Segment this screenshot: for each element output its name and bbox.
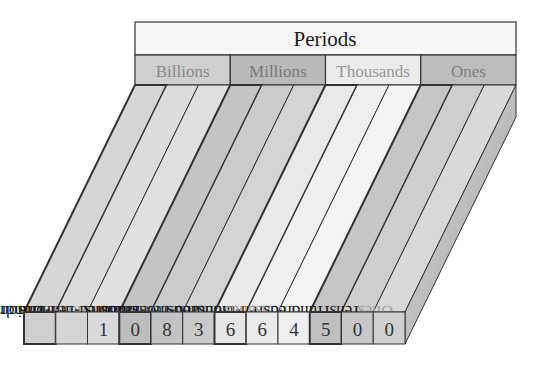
digit-cell: 3 <box>183 312 215 344</box>
period-cell-millions: Millions <box>230 55 325 85</box>
digit-value: 3 <box>194 319 204 340</box>
digit-cell <box>56 312 88 344</box>
digit-row: 1083664500 <box>24 312 405 344</box>
digit-cell: 8 <box>151 312 183 344</box>
period-cell-thousands: Thousands <box>326 55 421 85</box>
digit-value: 5 <box>321 319 331 340</box>
period-cell-billions: Billions <box>135 55 230 85</box>
digit-value: 1 <box>99 319 109 340</box>
digit-cell: 4 <box>278 312 310 344</box>
digit-cell: 6 <box>215 312 247 344</box>
period-header-row: BillionsMillionsThousandsOnes <box>135 55 516 85</box>
period-label: Billions <box>156 62 210 81</box>
digit-value: 6 <box>226 319 236 340</box>
digit-cell <box>24 312 56 344</box>
period-label: Thousands <box>336 62 410 81</box>
period-label: Millions <box>249 62 307 81</box>
digit-value: 4 <box>289 319 299 340</box>
place-value-slats: Hundred-billionsTen-billionsBillionsHund… <box>0 85 516 321</box>
period-cell-ones: Ones <box>421 55 516 85</box>
digit-value: 8 <box>162 319 172 340</box>
digit-cell: 0 <box>342 312 374 344</box>
digit-value: 0 <box>384 319 394 340</box>
digit-cell: 5 <box>310 312 342 344</box>
digit-value: 6 <box>257 319 267 340</box>
digit-cell: 0 <box>373 312 405 344</box>
period-label: Ones <box>451 62 486 81</box>
digit-value: 0 <box>130 319 140 340</box>
periods-title: Periods <box>294 27 357 51</box>
digit-value: 0 <box>353 319 363 340</box>
digit-cell: 6 <box>246 312 278 344</box>
digit-cell: 0 <box>119 312 151 344</box>
digit-cell: 1 <box>88 312 120 344</box>
place-value-diagram: Periods BillionsMillionsThousandsOnes Hu… <box>0 0 550 368</box>
periods-title-box: Periods <box>135 22 516 55</box>
place-value-chart: Periods BillionsMillionsThousandsOnes Hu… <box>0 0 550 368</box>
